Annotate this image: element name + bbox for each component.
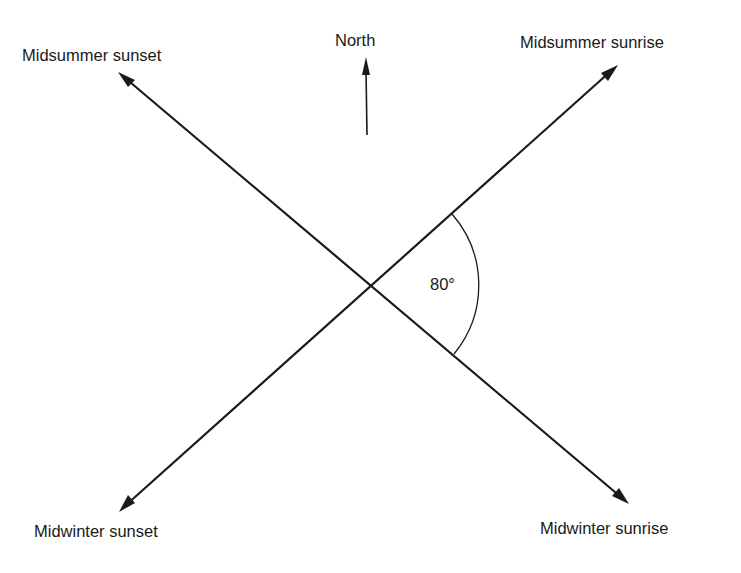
angle-label: 80° — [430, 275, 455, 293]
north-arrow — [362, 57, 370, 135]
north-label: North — [335, 31, 375, 49]
angle-arc — [452, 214, 479, 354]
midsummer-sunset-to-midwinter-sunrise-line — [118, 72, 629, 504]
north-arrow-shaft — [366, 70, 367, 135]
midwinter-sunrise-label: Midwinter sunrise — [540, 519, 668, 537]
solstice-diagram: Midsummer sunset Midsummer sunrise Midwi… — [0, 0, 741, 573]
sw-ne-line — [125, 70, 612, 506]
midsummer-sunrise-label: Midsummer sunrise — [520, 33, 664, 51]
midwinter-sunset-to-midsummer-sunrise-line — [119, 65, 618, 512]
nw-se-line — [124, 77, 622, 498]
midwinter-sunset-label: Midwinter sunset — [34, 522, 158, 540]
north-arrow-icon — [362, 57, 370, 75]
midwinter-sunset-arrowhead-icon — [119, 495, 135, 512]
midsummer-sunset-label: Midsummer sunset — [22, 46, 162, 64]
